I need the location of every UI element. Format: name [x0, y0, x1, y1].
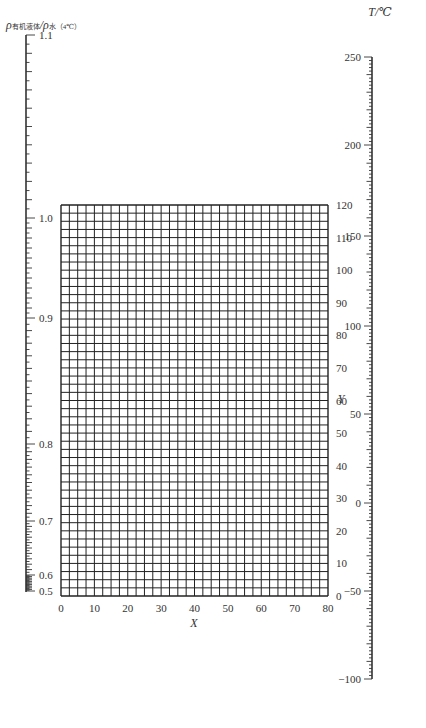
density-ratio-scale: 1.11.00.90.80.70.60.5	[26, 29, 53, 597]
x-tick-label: 50	[222, 602, 234, 614]
y-tick-label: 120	[336, 199, 353, 211]
y-tick-label: 30	[336, 492, 348, 504]
y-tick-label: 10	[336, 557, 348, 569]
temperature-axis-title: T/℃	[368, 5, 392, 19]
temperature-tick-label: 0	[356, 497, 362, 509]
density-tick-label: 0.5	[39, 585, 53, 597]
y-tick-label: 100	[336, 264, 353, 276]
temperature-tick-label: −100	[338, 673, 361, 685]
temperature-tick-label: 200	[345, 139, 362, 151]
y-tick-label: 70	[336, 362, 348, 374]
density-ratio-axis-title: ρ有机液体/ρ水（4℃）	[5, 18, 81, 32]
x-tick-label: 40	[189, 602, 201, 614]
density-tick-label: 0.9	[39, 312, 53, 324]
temperature-tick-label: 150	[345, 230, 362, 242]
density-tick-label: 0.7	[39, 515, 53, 527]
x-tick-label: 60	[256, 602, 268, 614]
y-tick-label: 50	[336, 427, 348, 439]
x-axis-title: X	[189, 616, 198, 630]
x-tick-label: 80	[323, 602, 335, 614]
x-tick-label: 10	[89, 602, 101, 614]
x-tick-label: 20	[122, 602, 134, 614]
temperature-tick-label: 50	[350, 408, 362, 420]
nomogram-chart: 1.11.00.90.80.70.60.5 010203040506070800…	[0, 0, 426, 728]
xy-grid: 0102030405060708001020304050607080901001…	[58, 199, 353, 614]
density-tick-label: 0.6	[39, 569, 53, 581]
y-tick-label: 0	[336, 590, 342, 602]
x-tick-label: 30	[156, 602, 168, 614]
temperature-tick-label: −50	[344, 585, 362, 597]
y-tick-label: 90	[336, 297, 348, 309]
temperature-tick-label: 100	[345, 320, 362, 332]
y-tick-label: 20	[336, 525, 348, 537]
density-tick-label: 0.8	[39, 438, 53, 450]
y-tick-label: 40	[336, 460, 348, 472]
density-tick-label: 1.0	[39, 212, 53, 224]
temperature-tick-label: 250	[345, 51, 362, 63]
x-tick-label: 0	[58, 602, 64, 614]
x-tick-label: 70	[289, 602, 301, 614]
